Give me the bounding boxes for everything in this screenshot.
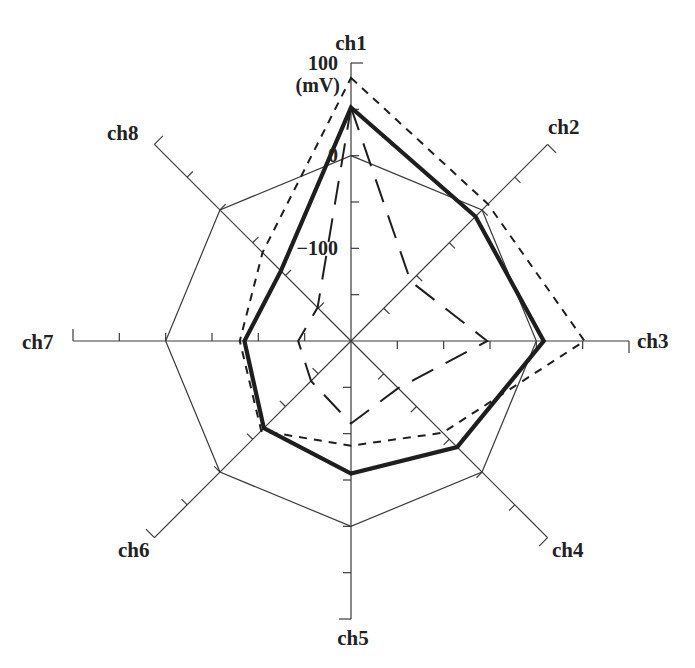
- tick-label-0: 0: [328, 144, 338, 166]
- tick-label-minus-100: −100: [297, 237, 338, 259]
- axis-label-ch1: ch1: [335, 31, 367, 55]
- axis-tick: [449, 243, 455, 249]
- series-dashed-short: [240, 78, 585, 446]
- axis-tick: [146, 529, 154, 537]
- axis-tick: [509, 505, 515, 511]
- axis-label-ch3: ch3: [637, 329, 669, 353]
- axis-label-ch8: ch8: [107, 121, 139, 145]
- axis-tick: [384, 308, 390, 314]
- axis-tick: [154, 136, 162, 144]
- radar-chart: ch1 ch2 ch3 ch4 ch5 ch6 ch7 ch8 100 (mV)…: [0, 0, 695, 668]
- axis-label-ch5: ch5: [337, 626, 369, 650]
- axis-tick: [313, 368, 319, 374]
- axis-tick: [515, 177, 521, 183]
- series-layer: [240, 78, 585, 474]
- axis-tick: [247, 434, 253, 440]
- axis-tick: [548, 144, 556, 152]
- axis-tick: [411, 407, 417, 413]
- axis-tick: [444, 439, 450, 445]
- axis-tick: [280, 401, 286, 407]
- axis-label-ch7: ch7: [22, 330, 54, 354]
- axis-tick: [187, 172, 193, 178]
- axis-tick: [417, 275, 423, 281]
- series-solid-thick: [244, 107, 543, 473]
- unit-label: (mV): [296, 74, 340, 97]
- axis-label-ch4: ch4: [552, 538, 584, 562]
- axis-tick: [253, 237, 259, 243]
- series-dashed-long: [298, 107, 487, 423]
- axis-tick: [539, 538, 547, 546]
- axis-tick: [285, 270, 291, 276]
- axis-tick: [378, 374, 384, 380]
- axis-label-ch2: ch2: [548, 115, 580, 139]
- axis-label-ch6: ch6: [118, 538, 150, 562]
- tick-label-100: 100: [308, 52, 338, 74]
- axis-tick: [182, 499, 188, 505]
